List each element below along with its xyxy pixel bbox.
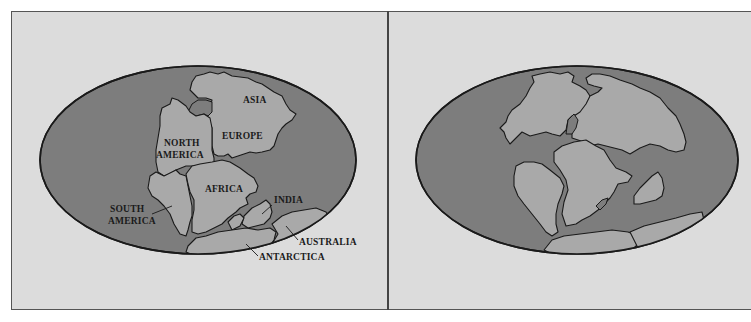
label-india: INDIA xyxy=(274,195,303,205)
label-north-america-line2: AMERICA xyxy=(156,150,204,160)
label-europe: EUROPE xyxy=(222,131,263,141)
label-asia: ASIA xyxy=(243,95,267,105)
label-north-america-line1: NORTH xyxy=(164,138,200,148)
right-map xyxy=(416,66,738,258)
left-map: ASIA EUROPE NORTH AMERICA AFRICA SOUTH A… xyxy=(40,66,357,262)
label-antarctica: ANTARCTICA xyxy=(259,252,325,262)
label-south-america-line1: SOUTH xyxy=(110,204,145,214)
label-south-america-line2: AMERICA xyxy=(108,216,156,226)
label-australia: AUSTRALIA xyxy=(299,237,357,247)
label-africa: AFRICA xyxy=(205,184,243,194)
